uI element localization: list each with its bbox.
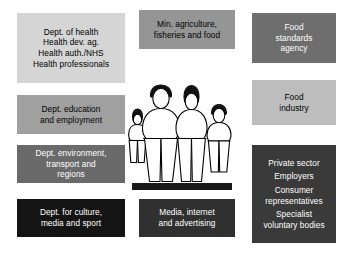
dept-of-health-box[interactable]: Dept. of health Health dev. ag. Health a… [17, 13, 125, 83]
box-text-line: industry [279, 103, 308, 114]
box-text-line: Health professionals [33, 59, 109, 70]
media-internet-advertising-box[interactable]: Media, internet and advertising [139, 199, 235, 237]
box-text-line: agency [280, 43, 307, 54]
dept-environment-transport-regions-box[interactable]: Dept. environment, transport and regions [17, 145, 125, 183]
box-text-line: voluntary bodies [263, 220, 324, 231]
box-text-line: fisheries and food [154, 30, 220, 41]
figure-child [207, 105, 231, 173]
box-text-line: representatives [265, 196, 322, 207]
box-text-line: media and sport [41, 218, 101, 229]
box-text-line: Dept. environment, [36, 148, 107, 159]
box-text-line: Media, internet [159, 207, 215, 218]
min-agriculture-fisheries-food-box[interactable]: Min. agriculture, fisheries and food [139, 10, 235, 49]
box-text-line: Dept. for culture, [40, 207, 102, 218]
figure-adult-female [176, 86, 207, 182]
food-industry-box[interactable]: Food industry [252, 80, 336, 125]
box-text-line: Food [284, 22, 303, 33]
box-text-line: transport and [46, 159, 96, 170]
ground-bar [132, 183, 232, 190]
box-text-line: and employment [40, 115, 102, 126]
dept-culture-media-sport-box[interactable]: Dept. for culture, media and sport [17, 199, 125, 237]
box-text-line: Private sector [268, 158, 319, 169]
box-text-line: Consumer [275, 185, 314, 196]
box-text-line: Min. agriculture, [157, 19, 217, 30]
box-text-line: and advertising [158, 218, 215, 229]
box-text-line: Dept. of health [44, 27, 99, 38]
box-text-line: Health dev. ag. [43, 37, 99, 48]
family-figures-illustration [128, 82, 236, 194]
box-text-line: Food [284, 92, 303, 103]
diagram-canvas: Dept. of health Health dev. ag. Health a… [0, 0, 360, 257]
box-text-line: Dept. education [42, 104, 101, 115]
box-text-line: regions [57, 169, 85, 180]
box-text-line: standards [276, 33, 313, 44]
food-standards-agency-box[interactable]: Food standards agency [252, 13, 336, 63]
dept-education-employment-box[interactable]: Dept. education and employment [17, 95, 125, 134]
box-text-line: Employers [274, 171, 314, 182]
box-text-line: Health auth./NHS [38, 48, 103, 59]
box-text-line: Specialist [276, 209, 312, 220]
private-sector-stakeholders-box[interactable]: Private sector Employers Consumer repres… [252, 145, 336, 243]
figure-adult-male [143, 85, 180, 182]
